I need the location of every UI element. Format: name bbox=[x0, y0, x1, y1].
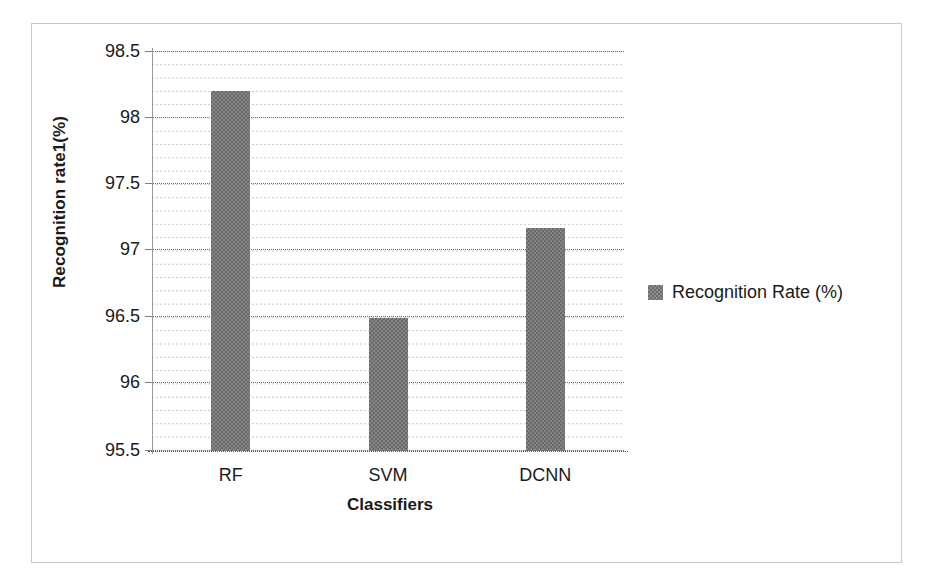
y-tick-label-97-5: 97.5 bbox=[80, 174, 140, 192]
chart-legend: Recognition Rate (%) bbox=[648, 282, 843, 303]
y-tick-label-96-5: 96.5 bbox=[80, 307, 140, 325]
x-axis-line bbox=[148, 451, 628, 452]
legend-swatch-recognition-rate bbox=[648, 285, 663, 300]
y-tick-label-95-5: 95.5 bbox=[80, 441, 140, 459]
y-axis-tick-labels: 98.5 98 97.5 97 96.5 96 95.5 bbox=[78, 0, 140, 584]
x-axis-title: Classifiers bbox=[150, 495, 630, 515]
bar-rf[interactable] bbox=[211, 91, 250, 451]
x-tick-label-dcnn: DCNN bbox=[467, 466, 624, 484]
bar-svm[interactable] bbox=[369, 318, 408, 451]
legend-label-recognition-rate: Recognition Rate (%) bbox=[672, 282, 843, 303]
y-tick-label-98-5: 98.5 bbox=[80, 42, 140, 60]
x-tick-label-svm: SVM bbox=[309, 466, 466, 484]
y-axis-line bbox=[152, 48, 153, 454]
x-tick-label-rf: RF bbox=[152, 466, 309, 484]
y-tick-label-98: 98 bbox=[80, 108, 140, 126]
y-axis-title: Recognition rate1(%) bbox=[50, 87, 70, 317]
major-gridline-98-5 bbox=[152, 51, 624, 52]
bar-dcnn[interactable] bbox=[526, 228, 565, 451]
y-tick-label-97: 97 bbox=[80, 240, 140, 258]
y-tick-label-96: 96 bbox=[80, 373, 140, 391]
figure-canvas: Recognition rate1(%) 98.5 98 97.5 97 96.… bbox=[0, 0, 925, 584]
x-axis-category-labels: RF SVM DCNN bbox=[152, 466, 624, 496]
plot-area bbox=[152, 51, 624, 451]
